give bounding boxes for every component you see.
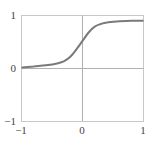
y-tick-label-mid: 0 [11, 62, 17, 74]
x-tick-label-left: −1 [15, 124, 27, 136]
x-tick-label-right: 1 [140, 124, 146, 136]
x-tick-label-mid: 0 [79, 124, 85, 136]
y-tick-label-top: 1 [11, 9, 17, 21]
sigmoid-chart: 1 0 −1 −1 0 1 [0, 0, 154, 147]
